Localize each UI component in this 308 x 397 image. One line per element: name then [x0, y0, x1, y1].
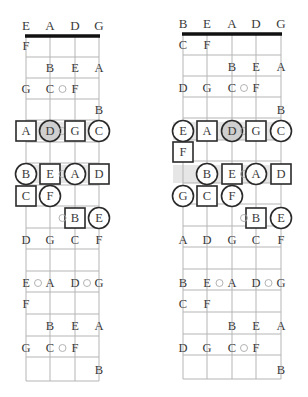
- note-label: A: [227, 276, 236, 290]
- note-label: E: [22, 276, 30, 290]
- note-label: B: [277, 103, 285, 117]
- note-label: C: [203, 189, 211, 203]
- open-string-label: A: [45, 18, 55, 33]
- note-label: C: [228, 341, 236, 355]
- position-dot-icon: [241, 345, 248, 352]
- note-label: F: [47, 189, 54, 203]
- note-label: G: [21, 82, 30, 96]
- note-label: A: [21, 124, 30, 138]
- note-label: A: [202, 124, 211, 138]
- note-label: E: [71, 61, 79, 75]
- note-label: E: [95, 211, 103, 225]
- note-label: B: [95, 103, 103, 117]
- note-label: D: [178, 341, 187, 355]
- note-label: E: [71, 319, 79, 333]
- note-label: B: [22, 167, 30, 181]
- note-label: C: [46, 341, 54, 355]
- note-label: B: [179, 276, 187, 290]
- note-label: F: [180, 145, 187, 159]
- note-label: E: [203, 276, 211, 290]
- note-label: F: [204, 297, 211, 311]
- note-label: F: [253, 341, 260, 355]
- note-label: D: [251, 276, 260, 290]
- note-label: B: [277, 363, 285, 377]
- open-string-label: D: [70, 18, 79, 33]
- note-label: G: [227, 233, 236, 247]
- note-label: B: [252, 211, 260, 225]
- note-label: F: [204, 38, 211, 52]
- note-label: E: [228, 167, 236, 181]
- note-label: A: [94, 319, 103, 333]
- note-label: D: [94, 167, 103, 181]
- note-label: A: [251, 167, 260, 181]
- note-label: G: [21, 341, 30, 355]
- note-label: E: [277, 211, 285, 225]
- note-label: G: [178, 189, 187, 203]
- note-label: A: [276, 319, 285, 333]
- note-label: B: [95, 363, 103, 377]
- note-label: F: [23, 297, 30, 311]
- note-label: E: [252, 319, 260, 333]
- note-label: E: [179, 124, 187, 138]
- note-label: A: [94, 61, 103, 75]
- note-label: G: [70, 124, 79, 138]
- note-label: C: [22, 189, 30, 203]
- note-label: D: [227, 124, 236, 138]
- note-label: C: [277, 124, 285, 138]
- note-label: D: [276, 167, 285, 181]
- note-label: A: [45, 276, 54, 290]
- note-label: G: [202, 81, 211, 95]
- fretboard-diagram: EADGFBEAGCFBADGCBEADCFBEDGCFEADGFBEAGCFB…: [0, 0, 308, 397]
- note-label: B: [228, 60, 236, 74]
- note-label: F: [96, 233, 103, 247]
- note-label: C: [46, 82, 54, 96]
- note-label: E: [252, 60, 260, 74]
- position-dot-icon: [35, 280, 42, 287]
- note-label: A: [70, 167, 79, 181]
- note-label: G: [94, 276, 103, 290]
- note-label: D: [45, 124, 54, 138]
- note-label: F: [278, 233, 285, 247]
- note-label: B: [71, 211, 79, 225]
- position-dot-icon: [216, 280, 223, 287]
- note-label: D: [178, 81, 187, 95]
- note-label: B: [203, 167, 211, 181]
- note-label: C: [179, 297, 187, 311]
- note-label: C: [179, 38, 187, 52]
- open-string-label: G: [94, 18, 103, 33]
- position-dot-icon: [59, 86, 66, 93]
- note-label: F: [229, 189, 236, 203]
- note-label: F: [23, 39, 30, 53]
- position-dot-icon: [59, 345, 66, 352]
- note-label: D: [202, 233, 211, 247]
- note-label: G: [202, 341, 211, 355]
- four-string-fretboard: EADGFBEAGCFBADGCBEADCFBEDGCFEADGFBEAGCFB: [16, 18, 110, 381]
- note-label: C: [71, 233, 79, 247]
- position-dot-icon: [84, 280, 91, 287]
- open-string-label: A: [227, 16, 237, 31]
- note-label: A: [178, 233, 187, 247]
- note-label: C: [95, 124, 103, 138]
- note-label: F: [72, 341, 79, 355]
- position-dot-icon: [241, 85, 248, 92]
- note-label: D: [70, 276, 79, 290]
- note-label: A: [276, 60, 285, 74]
- note-label: C: [228, 81, 236, 95]
- position-dot-icon: [265, 280, 272, 287]
- note-label: C: [252, 233, 260, 247]
- note-label: F: [72, 82, 79, 96]
- note-label: B: [228, 319, 236, 333]
- open-string-label: B: [179, 16, 188, 31]
- note-label: G: [276, 276, 285, 290]
- open-string-label: E: [203, 16, 211, 31]
- note-label: D: [21, 233, 30, 247]
- note-label: E: [46, 167, 54, 181]
- five-string-fretboard: BEADGCFBEADGCFBEADGCFBEADGCFBEADGCFBEADG…: [173, 16, 292, 379]
- open-string-label: E: [22, 18, 30, 33]
- open-string-label: G: [276, 16, 285, 31]
- note-label: B: [46, 61, 54, 75]
- note-label: B: [46, 319, 54, 333]
- open-string-label: D: [251, 16, 260, 31]
- note-label: F: [253, 81, 260, 95]
- note-label: G: [45, 233, 54, 247]
